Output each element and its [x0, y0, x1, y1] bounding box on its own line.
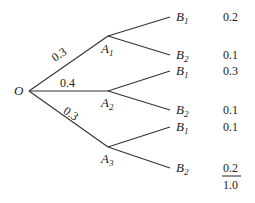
- joint-prob-a1-b2: 0.1: [223, 48, 238, 62]
- edge-a3-b2: [108, 147, 170, 168]
- node-a2-b1: B1: [176, 63, 188, 80]
- node-a3-b1: B1: [176, 119, 188, 136]
- root-label: O: [14, 83, 24, 98]
- joint-prob-a2-b1: 0.3: [223, 64, 238, 78]
- probability-tree-diagram: O 0.3 0.4 0.3 A1 A2 A3 B1 B2 B1 B2 B1 B2…: [0, 0, 255, 203]
- edge-a2-b2: [108, 91, 170, 110]
- joint-prob-a3-b1: 0.1: [223, 120, 238, 134]
- joint-prob-a1-b1: 0.2: [223, 10, 238, 24]
- branch-prob-a3: 0.3: [61, 104, 81, 124]
- node-a1-b1: B1: [176, 9, 188, 26]
- node-a2: A2: [100, 95, 114, 112]
- edge-a1-b1: [108, 17, 170, 36]
- node-a3: A3: [100, 151, 114, 168]
- edge-a3-b1: [108, 127, 170, 147]
- total-prob: 1.0: [223, 178, 238, 192]
- edge-a1-b2: [108, 36, 170, 55]
- branch-prob-a2: 0.4: [60, 76, 75, 90]
- node-a1: A1: [100, 41, 113, 58]
- node-a1-b2: B2: [176, 47, 189, 64]
- node-a3-b2: B2: [176, 160, 189, 177]
- joint-prob-a2-b2: 0.1: [223, 103, 238, 117]
- edge-a2-b1: [108, 71, 170, 91]
- node-a2-b2: B2: [176, 102, 189, 119]
- branch-prob-a1: 0.3: [49, 44, 69, 64]
- joint-prob-a3-b2: 0.2: [223, 161, 238, 175]
